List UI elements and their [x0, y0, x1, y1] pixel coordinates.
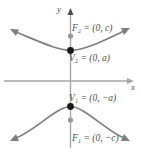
- vertex-lower-label: V₁ = (0, −a): [69, 93, 116, 103]
- focus-lower-point: [68, 117, 73, 122]
- focus-upper-point: [68, 33, 73, 38]
- focus-lower-label: F₁ = (0, −c): [72, 133, 119, 143]
- hyperbola-figure: F₂ = (0, c) V₂ = (0, a) V₁ = (0, −a) F₁ …: [0, 0, 141, 155]
- vertex-upper-label: V₂ = (0, a): [69, 53, 110, 63]
- focus-upper-label: F₂ = (0, c): [72, 23, 112, 33]
- hyperbola-graph-svg: [0, 0, 141, 155]
- x-axis: [4, 78, 134, 84]
- y-axis-label: y: [57, 4, 61, 14]
- vertex-lower-point: [67, 103, 74, 110]
- x-axis-label: x: [131, 82, 135, 92]
- y-axis-arrow-icon: [68, 8, 74, 15]
